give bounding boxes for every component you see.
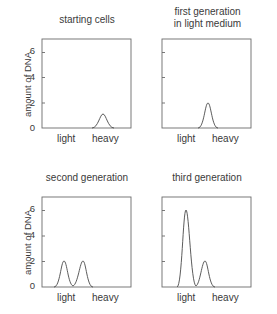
plot-frame-4 — [162, 197, 251, 287]
peak-light — [54, 261, 93, 287]
peak-heavy — [92, 114, 114, 128]
peak-hybrid — [198, 103, 218, 128]
plot-canvas — [0, 0, 277, 314]
peak-light-tall — [177, 210, 215, 287]
plot-frame-1 — [42, 39, 131, 128]
plot-frame-2 — [162, 39, 251, 128]
